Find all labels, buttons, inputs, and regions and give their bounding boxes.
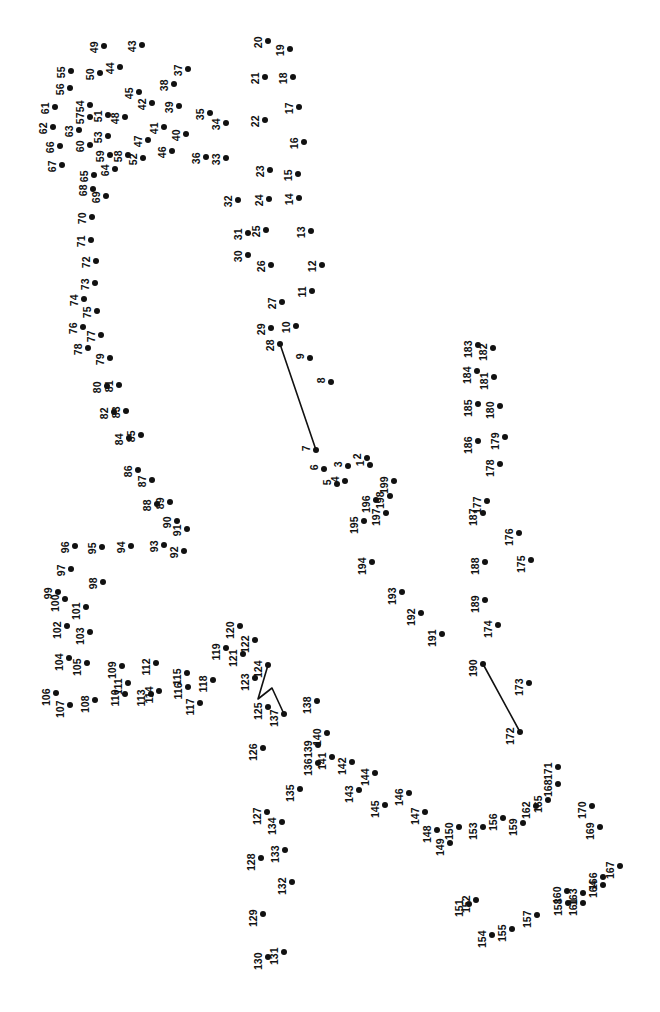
dot-7[interactable] xyxy=(313,447,319,453)
dot-79[interactable] xyxy=(107,355,113,361)
dot-53[interactable] xyxy=(105,133,111,139)
dot-39[interactable] xyxy=(176,103,182,109)
dot-63[interactable] xyxy=(76,127,82,133)
dot-33[interactable] xyxy=(223,155,229,161)
dot-106[interactable] xyxy=(53,690,59,696)
dot-102[interactable] xyxy=(64,623,70,629)
dot-161[interactable] xyxy=(580,900,586,906)
dot-67[interactable] xyxy=(59,162,65,168)
dot-154[interactable] xyxy=(489,932,495,938)
dot-124[interactable] xyxy=(265,662,271,668)
dot-2[interactable] xyxy=(364,455,370,461)
dot-76[interactable] xyxy=(80,324,86,330)
dot-117[interactable] xyxy=(197,700,203,706)
dot-175[interactable] xyxy=(528,557,534,563)
dot-25[interactable] xyxy=(263,227,269,233)
dot-170[interactable] xyxy=(589,803,595,809)
dot-45[interactable] xyxy=(136,89,142,95)
dot-30[interactable] xyxy=(245,252,251,258)
dot-62[interactable] xyxy=(50,124,56,130)
dot-21[interactable] xyxy=(262,74,268,80)
dot-105[interactable] xyxy=(84,660,90,666)
dot-4[interactable] xyxy=(342,478,348,484)
dot-29[interactable] xyxy=(268,325,274,331)
dot-138[interactable] xyxy=(314,698,320,704)
dot-10[interactable] xyxy=(293,323,299,329)
dot-180[interactable] xyxy=(497,403,503,409)
dot-122[interactable] xyxy=(252,637,258,643)
dot-181[interactable] xyxy=(491,374,497,380)
dot-191[interactable] xyxy=(439,631,445,637)
dot-103[interactable] xyxy=(87,629,93,635)
dot-132[interactable] xyxy=(289,879,295,885)
dot-3[interactable] xyxy=(345,463,351,469)
dot-101[interactable] xyxy=(83,604,89,610)
dot-135[interactable] xyxy=(297,786,303,792)
dot-11[interactable] xyxy=(309,288,315,294)
dot-147[interactable] xyxy=(422,809,428,815)
dot-173[interactable] xyxy=(526,680,532,686)
dot-146[interactable] xyxy=(406,790,412,796)
dot-111[interactable] xyxy=(125,680,131,686)
dot-40[interactable] xyxy=(183,131,189,137)
dot-47[interactable] xyxy=(145,137,151,143)
dot-190[interactable] xyxy=(480,661,486,667)
dot-192[interactable] xyxy=(418,610,424,616)
dot-148[interactable] xyxy=(434,827,440,833)
dot-15[interactable] xyxy=(295,171,301,177)
dot-22[interactable] xyxy=(262,117,268,123)
dot-98[interactable] xyxy=(100,579,106,585)
dot-17[interactable] xyxy=(296,104,302,110)
dot-167[interactable] xyxy=(617,863,623,869)
dot-78[interactable] xyxy=(85,345,91,351)
dot-172[interactable] xyxy=(517,729,523,735)
dot-90[interactable] xyxy=(174,518,180,524)
dot-156[interactable] xyxy=(500,815,506,821)
dot-199[interactable] xyxy=(391,478,397,484)
dot-115[interactable] xyxy=(184,670,190,676)
dot-13[interactable] xyxy=(308,228,314,234)
dot-44[interactable] xyxy=(117,64,123,70)
dot-169[interactable] xyxy=(597,824,603,830)
dot-142[interactable] xyxy=(349,759,355,765)
dot-72[interactable] xyxy=(93,258,99,264)
dot-49[interactable] xyxy=(101,43,107,49)
dot-188[interactable] xyxy=(482,559,488,565)
dot-37[interactable] xyxy=(185,66,191,72)
dot-178[interactable] xyxy=(497,461,503,467)
dot-168[interactable] xyxy=(555,781,561,787)
dot-96[interactable] xyxy=(72,543,78,549)
dot-27[interactable] xyxy=(279,299,285,305)
dot-56[interactable] xyxy=(67,85,73,91)
dot-86[interactable] xyxy=(135,467,141,473)
dot-109[interactable] xyxy=(119,663,125,669)
dot-100[interactable] xyxy=(62,596,68,602)
dot-35[interactable] xyxy=(207,110,213,116)
dot-8[interactable] xyxy=(328,379,334,385)
dot-152[interactable] xyxy=(473,897,479,903)
dot-120[interactable] xyxy=(237,623,243,629)
dot-195[interactable] xyxy=(361,518,367,524)
dot-163[interactable] xyxy=(580,890,586,896)
dot-43[interactable] xyxy=(139,42,145,48)
dot-92[interactable] xyxy=(181,548,187,554)
dot-94[interactable] xyxy=(128,543,134,549)
dot-64[interactable] xyxy=(112,166,118,172)
dot-155[interactable] xyxy=(509,926,515,932)
dot-77[interactable] xyxy=(98,332,104,338)
dot-9[interactable] xyxy=(307,355,313,361)
dot-18[interactable] xyxy=(290,74,296,80)
dot-69[interactable] xyxy=(103,193,109,199)
dot-125[interactable] xyxy=(265,704,271,710)
dot-128[interactable] xyxy=(258,855,264,861)
dot-61[interactable] xyxy=(52,104,58,110)
dot-112[interactable] xyxy=(153,660,159,666)
dot-97[interactable] xyxy=(68,566,74,572)
dot-108[interactable] xyxy=(92,697,98,703)
dot-134[interactable] xyxy=(279,819,285,825)
dot-71[interactable] xyxy=(88,237,94,243)
dot-50[interactable] xyxy=(97,70,103,76)
dot-107[interactable] xyxy=(67,702,73,708)
dot-48[interactable] xyxy=(122,114,128,120)
dot-12[interactable] xyxy=(319,262,325,268)
